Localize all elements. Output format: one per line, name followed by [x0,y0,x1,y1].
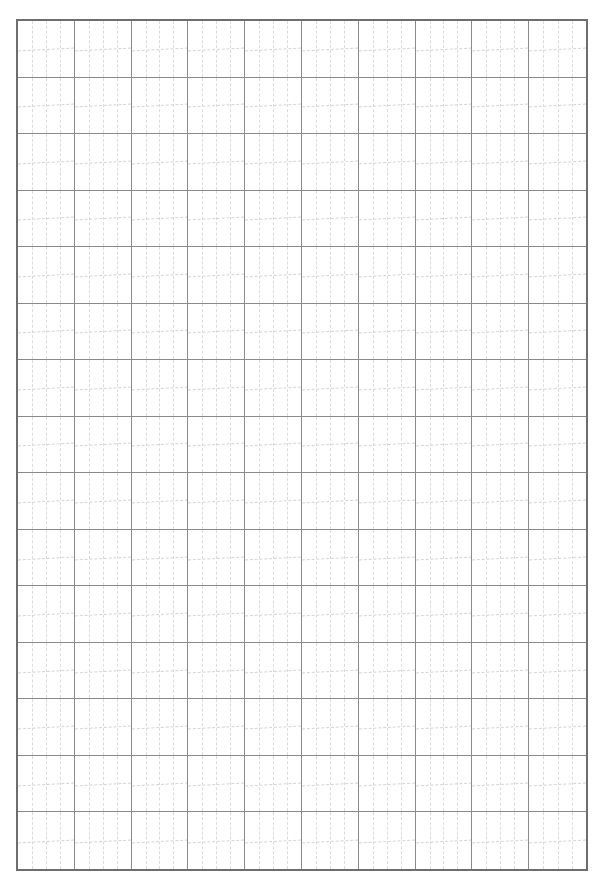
grid-cell [18,699,75,756]
grid-cell [302,360,359,417]
vertical-guide-line [457,417,458,473]
vertical-guide-line [173,304,174,360]
grid-cell [359,643,416,700]
grid-cell [132,699,189,756]
grid-cell [302,643,359,700]
grid-cell [416,360,473,417]
grid-cell [245,643,302,700]
vertical-guide-line [457,78,458,134]
grid-cell [132,21,189,78]
grid-sheet [16,19,588,871]
vertical-guide-line [401,417,402,473]
grid-cell [359,247,416,304]
vertical-guide-line [430,530,431,586]
grid-cell [359,586,416,643]
grid-cell [188,134,245,191]
vertical-guide-line [117,417,118,473]
vertical-guide-line [514,78,515,134]
grid-cell [132,247,189,304]
vertical-guide-line [514,304,515,360]
grid-cell [18,812,75,869]
grid-cell [245,586,302,643]
grid-cell [18,360,75,417]
grid-cell [245,699,302,756]
grid-cell [245,360,302,417]
grid-cell [529,643,586,700]
grid-cell [302,530,359,587]
vertical-guide-line [543,530,544,586]
grid-cell [359,360,416,417]
grid-cell [75,473,132,530]
grid-cell [359,134,416,191]
grid-cell [75,756,132,813]
grid-cell [132,473,189,530]
grid-cell [188,643,245,700]
vertical-guide-line [572,191,573,247]
vertical-guide-line [146,530,147,586]
grid-cell [359,21,416,78]
grid-cell [472,812,529,869]
grid-cell [529,247,586,304]
grid-cell [75,21,132,78]
grid-cell [302,134,359,191]
grid-cell [245,134,302,191]
vertical-guide-line [89,643,90,699]
grid-cell [472,21,529,78]
grid-cell [245,417,302,474]
grid-cell [416,643,473,700]
vertical-guide-line [259,530,260,586]
grid-cell [302,417,359,474]
vertical-guide-line [430,643,431,699]
grid-cell [359,756,416,813]
grid-cell [188,78,245,135]
vertical-guide-line [60,78,61,134]
grid-cell [416,134,473,191]
grid-cell [472,417,529,474]
grid-cell [472,586,529,643]
vertical-guide-line [572,417,573,473]
grid-cell [416,78,473,135]
grid-cell [529,360,586,417]
grid-cell [188,530,245,587]
vertical-guide-line [89,530,90,586]
grid-cell [416,586,473,643]
grid-cell [359,812,416,869]
grid-cell [132,643,189,700]
vertical-guide-line [287,304,288,360]
grid-cell [18,756,75,813]
grid-cell [302,586,359,643]
grid-cell [416,756,473,813]
grid-cell [529,78,586,135]
vertical-guide-line [401,191,402,247]
grid-cell [132,304,189,361]
grid-cell [188,473,245,530]
grid-cell [472,473,529,530]
grid-cell [245,812,302,869]
grid-cell [529,586,586,643]
grid-cell [529,812,586,869]
grid-cell [18,586,75,643]
grid-cell [245,756,302,813]
vertical-guide-line [117,304,118,360]
grid-cell [18,78,75,135]
grid-cell [302,247,359,304]
grid-cell [188,304,245,361]
grid-cell [302,78,359,135]
grid-cell [472,699,529,756]
grid-cell [75,360,132,417]
vertical-guide-line [316,643,317,699]
vertical-guide-line [344,191,345,247]
grid-cell [18,21,75,78]
grid-cell [75,78,132,135]
grid-cell [132,360,189,417]
vertical-guide-line [486,530,487,586]
grid-cell [188,21,245,78]
grid-cell [359,530,416,587]
vertical-guide-line [32,643,33,699]
grid-cell [188,586,245,643]
vertical-guide-line [230,191,231,247]
grid-cell [75,699,132,756]
grid-cell [132,134,189,191]
grid-cell [75,530,132,587]
grid-cell [472,304,529,361]
